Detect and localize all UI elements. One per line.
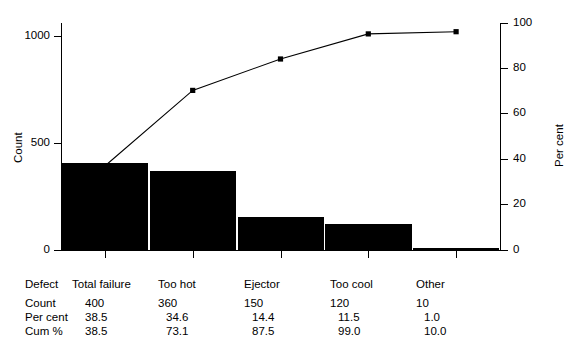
percent-cell-4: 1.0 (416, 311, 502, 325)
row-label-percent: Per cent (0, 311, 72, 325)
cumulative-marker-2 (278, 56, 283, 61)
defect-cell-4: Other (416, 278, 502, 297)
cumpct-cell-0: 38.5 (72, 325, 158, 339)
cumpct-cell-4: 10.0 (416, 325, 502, 339)
defect-cell-3: Too cool (330, 278, 416, 297)
table-row-percent: Per cent 38.5 34.6 14.4 11.5 1.0 (0, 311, 502, 325)
percent-cell-2: 14.4 (244, 311, 330, 325)
cumpct-cell-3: 99.0 (330, 325, 416, 339)
table-row-defect: Defect Total failure Too hot Ejector Too… (0, 278, 502, 297)
percent-cell-1: 34.6 (158, 311, 244, 325)
cumpct-cell-2: 87.5 (244, 325, 330, 339)
pareto-chart-figure: 0 500 1000 Count 0 20 40 60 80 100 Per c… (0, 0, 568, 354)
count-cell-4: 10 (416, 297, 502, 311)
row-label-defect: Defect (0, 278, 72, 297)
cumulative-marker-0 (102, 163, 107, 168)
cumpct-cell-1: 73.1 (158, 325, 244, 339)
cumulative-line (105, 32, 456, 166)
data-table: Defect Total failure Too hot Ejector Too… (0, 278, 568, 339)
table-row-count: Count 400 360 150 120 10 (0, 297, 502, 311)
count-cell-0: 400 (72, 297, 158, 311)
defect-cell-1: Too hot (158, 278, 244, 297)
cumulative-marker-4 (454, 29, 459, 34)
percent-cell-3: 11.5 (330, 311, 416, 325)
count-cell-2: 150 (244, 297, 330, 311)
cumulative-line-svg (0, 0, 568, 278)
cumulative-marker-1 (190, 88, 195, 93)
row-label-count: Count (0, 297, 72, 311)
row-label-cumpct: Cum % (0, 325, 72, 339)
count-cell-1: 360 (158, 297, 244, 311)
defect-cell-2: Ejector (244, 278, 330, 297)
percent-cell-0: 38.5 (72, 311, 158, 325)
cumulative-marker-3 (366, 31, 371, 36)
table-row-cumpct: Cum % 38.5 73.1 87.5 99.0 10.0 (0, 325, 502, 339)
count-cell-3: 120 (330, 297, 416, 311)
defect-cell-0: Total failure (72, 278, 158, 297)
plot-area: 0 500 1000 Count 0 20 40 60 80 100 Per c… (0, 0, 568, 278)
